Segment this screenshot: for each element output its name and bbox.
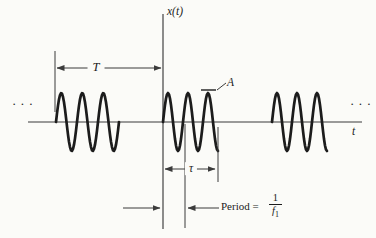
- ellipsis-left: ···: [12, 97, 37, 111]
- fraction-numerator: 1: [273, 192, 278, 204]
- y-axis-label: x(t): [167, 5, 183, 18]
- sine-burst: [56, 93, 119, 151]
- repetition-period-label: T: [88, 61, 105, 75]
- amplitude-leader-line: [217, 83, 226, 90]
- amplitude-label: A: [227, 76, 234, 89]
- fraction-denominator: f1: [269, 204, 282, 219]
- burst-duration-label: τ: [185, 162, 197, 175]
- ellipsis-right: ···: [350, 97, 375, 111]
- x-axis-label: t: [352, 125, 355, 138]
- figure-canvas: x(t) t T τ A ··· ··· Period = 1 f1: [0, 0, 376, 238]
- period-equals-label: Period =: [221, 200, 259, 212]
- diagram-svg: [0, 0, 376, 238]
- fraction-denominator-subscript: 1: [275, 210, 279, 219]
- reciprocal-frequency-fraction: 1 f1: [269, 192, 282, 219]
